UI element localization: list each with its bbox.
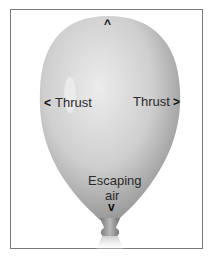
balloon-illustration: [0, 0, 213, 262]
escaping-air-label-line1: Escaping: [88, 174, 141, 188]
thrust-left-label: Thrust: [55, 96, 92, 110]
balloon-neck: [100, 218, 120, 236]
escaping-air-plume: [96, 236, 124, 250]
thrust-right-label: Thrust: [133, 95, 170, 109]
left-arrow-icon: <: [44, 97, 51, 109]
right-arrow-icon: >: [173, 96, 180, 108]
down-arrow-icon: v: [108, 201, 115, 213]
up-arrow-icon: ^: [104, 18, 111, 30]
